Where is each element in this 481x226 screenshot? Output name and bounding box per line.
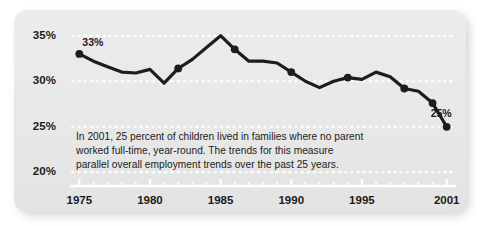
y-axis-label: 35% [14, 29, 56, 41]
x-axis-label: 1995 [339, 194, 385, 206]
data-markers [75, 45, 450, 130]
chart-figure: 35%30%25%20% 197519801985199019952001 33… [0, 0, 481, 226]
marker-point-1990 [287, 68, 295, 76]
x-axis-label: 1980 [127, 194, 173, 206]
annotation-paragraph: In 2001, 25 percent of children lived in… [76, 130, 366, 173]
point-label-first-point: 33% [82, 36, 103, 48]
x-axis-label: 1975 [56, 194, 102, 206]
x-axis-label: 2001 [424, 194, 466, 206]
chart-panel: 35%30%25%20% 197519801985199019952001 33… [14, 10, 466, 212]
marker-point-1994 [344, 74, 352, 82]
marker-point-1998 [400, 85, 408, 93]
x-axis-label: 1985 [198, 194, 244, 206]
point-label-last-point: 25% [431, 107, 452, 119]
y-axis-label: 25% [14, 120, 56, 132]
annotation-text-block: In 2001, 25 percent of children lived in… [76, 130, 366, 173]
y-axis-label: 30% [14, 74, 56, 86]
marker-last-point [443, 123, 451, 131]
marker-point-1982 [174, 65, 182, 73]
x-axis-label: 1990 [268, 194, 314, 206]
marker-first-point [75, 50, 83, 58]
y-axis-label: 20% [14, 165, 56, 177]
marker-point-1986 [231, 45, 239, 53]
